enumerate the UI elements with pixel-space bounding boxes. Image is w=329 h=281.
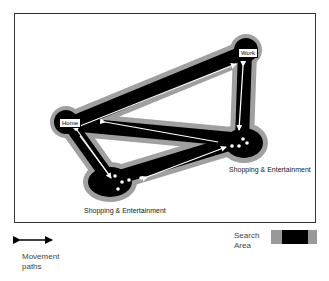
legend-search-area-core-swatch xyxy=(282,230,308,244)
node-label-work: Work xyxy=(238,48,258,58)
node-label-shopping-bottom: Shopping & Entertainment xyxy=(84,207,166,214)
node-label-home: Home xyxy=(59,118,81,128)
legend-search-label: Search Area xyxy=(234,231,259,251)
legend-movement-line2: paths xyxy=(22,262,59,272)
node-label-shopping-right: Shopping & Entertainment xyxy=(229,166,311,173)
legend-movement-line1: Movement xyxy=(22,252,59,262)
legend-search-line1: Search xyxy=(234,231,259,241)
legend-search-line2: Area xyxy=(234,241,259,251)
legend-movement-label: Movement paths xyxy=(22,252,59,272)
legend-search-area-swatch xyxy=(271,230,317,244)
